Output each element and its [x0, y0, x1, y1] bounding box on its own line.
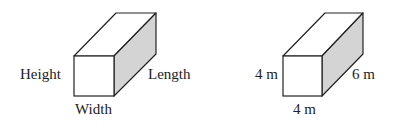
height-label: Height — [20, 66, 62, 82]
height-value-label: 4 m — [255, 66, 278, 82]
front-face — [74, 56, 114, 96]
diagram-canvas: Height Length Width 4 m 6 m 4 m — [0, 0, 395, 133]
generic-box: Height Length Width — [20, 13, 191, 117]
width-value-label: 4 m — [293, 101, 316, 117]
width-label: Width — [75, 101, 112, 117]
length-label: Length — [148, 66, 191, 82]
example-box: 4 m 6 m 4 m — [255, 13, 375, 117]
length-value-label: 6 m — [352, 66, 375, 82]
front-face — [283, 56, 322, 96]
